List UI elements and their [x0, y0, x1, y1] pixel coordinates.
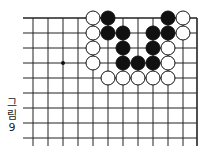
white-stone: [86, 56, 100, 70]
black-stone: [161, 11, 175, 25]
black-stone: [146, 26, 160, 40]
white-stone: [161, 71, 175, 85]
caption-number: 9: [5, 122, 19, 134]
black-stone: [116, 56, 130, 70]
white-stone: [176, 26, 190, 40]
black-stone: [161, 26, 175, 40]
black-stone: [116, 26, 130, 40]
figure-caption: 그 림 9: [5, 98, 19, 134]
white-stone: [131, 71, 145, 85]
black-stone: [101, 11, 115, 25]
black-stone: [101, 26, 115, 40]
white-stone: [116, 71, 130, 85]
white-stone: [176, 11, 190, 25]
go-board: [0, 0, 209, 161]
black-stone: [146, 41, 160, 55]
star-points: [61, 61, 65, 65]
white-stone: [161, 56, 175, 70]
white-stone: [146, 71, 160, 85]
black-stone: [131, 56, 145, 70]
white-stone: [86, 26, 100, 40]
black-stone: [116, 41, 130, 55]
white-stone: [86, 11, 100, 25]
white-stone: [86, 41, 100, 55]
white-stone: [161, 41, 175, 55]
white-stone: [101, 71, 115, 85]
star-point: [61, 61, 65, 65]
black-stone: [146, 56, 160, 70]
